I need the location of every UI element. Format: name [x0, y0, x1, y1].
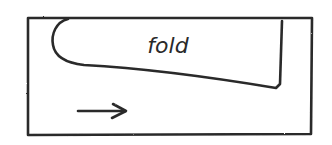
fold-diagram: fold	[0, 0, 332, 145]
fold-label: fold	[147, 33, 189, 58]
arrow-right-icon	[78, 104, 126, 118]
